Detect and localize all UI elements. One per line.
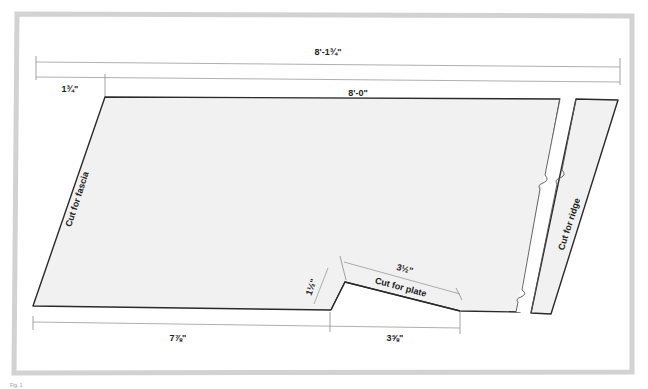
bottom-run-dimension: 7⅞" 3⅝" [33,312,460,343]
rafter-layout-diagram: 8'-1¾" 8'-0" 1¾" 3½" Cut for plate 1½" 7… [0,0,648,389]
figure-caption: Fig. 1 [10,382,23,388]
rafter-body-left [33,97,560,312]
overall-length-label: 8'-1¾" [315,47,342,57]
rafter-length-dimension: 8'-0" [36,74,620,98]
bottom-run-label: 7⅞" [170,333,187,343]
rafter-length-label: 8'-0" [348,88,367,98]
overhang-offset-label: 1¾" [62,84,79,94]
plate-cut-horizontal-label: 3⅝" [387,333,404,343]
